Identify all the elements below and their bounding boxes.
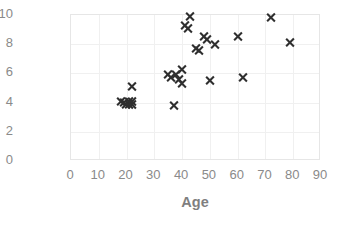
gridline-horizontal [71,73,319,74]
data-point-marker [179,20,190,31]
data-point-marker [127,81,138,92]
x-tick-label: 90 [305,168,335,181]
x-tick-label: 0 [55,168,85,181]
y-tick-label: 0 [0,153,13,166]
y-tick-label: 2 [0,124,13,137]
x-tick-label: 50 [194,168,224,181]
gridline-vertical [154,15,155,159]
x-tick-label: 60 [222,168,252,181]
gridline-horizontal [71,103,319,104]
data-point-marker [127,99,138,110]
data-point-marker [163,69,174,80]
x-axis-title: Age [70,194,320,210]
gridline-horizontal [71,44,319,45]
x-tick-label: 10 [83,168,113,181]
gridline-vertical [127,15,128,159]
x-tick-label: 80 [277,168,307,181]
data-point-marker [285,37,296,48]
gridline-vertical [182,15,183,159]
x-tick-label: 40 [166,168,196,181]
gridline-vertical [293,15,294,159]
data-point-marker [185,11,196,22]
data-point-marker [127,96,138,107]
gridline-vertical [265,15,266,159]
x-tick-label: 20 [111,168,141,181]
y-tick-label: 8 [0,36,13,49]
data-point-marker [124,96,135,107]
x-tick-label: 70 [249,168,279,181]
data-point-marker [182,23,193,34]
gridline-vertical [210,15,211,159]
gridline-vertical [99,15,100,159]
data-point-marker [116,96,127,107]
plot-area [70,14,320,160]
data-point-marker [266,12,277,23]
gridline-horizontal [71,132,319,133]
y-tick-label: 10 [0,7,13,20]
y-tick-label: 6 [0,65,13,78]
x-tick-label: 30 [138,168,168,181]
data-point-marker [193,45,204,56]
data-point-marker [124,99,135,110]
gridline-vertical [238,15,239,159]
scatter-chart: Preference Age 0246810010203040506070809… [0,0,345,226]
data-point-marker [199,31,210,42]
y-tick-label: 4 [0,95,13,108]
data-point-marker [171,69,182,80]
data-point-marker [174,74,185,85]
